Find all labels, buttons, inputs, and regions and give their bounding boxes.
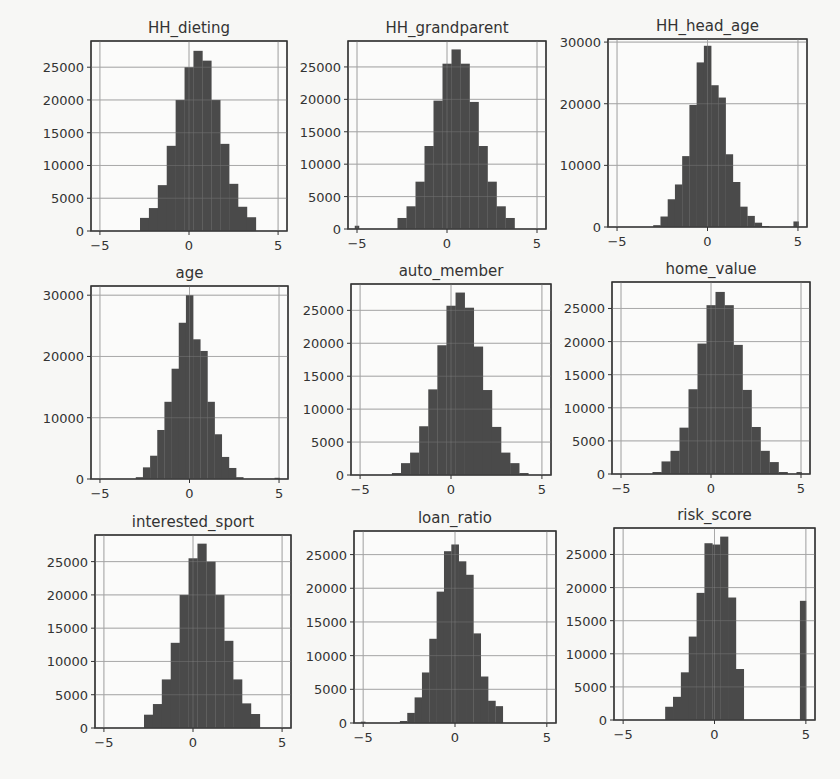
y-tick-label: 25000 (300, 60, 341, 75)
y-tick-label: 0 (336, 468, 344, 483)
x-tick-label: −5 (351, 482, 370, 497)
histogram-bar (470, 102, 479, 229)
y-tick-label: 5000 (311, 435, 344, 450)
histogram-bar (662, 461, 671, 474)
y-tick-label: 20000 (560, 97, 601, 112)
x-tick-label: −5 (611, 481, 630, 496)
x-tick-label: −5 (614, 727, 633, 742)
histogram-bar (488, 701, 496, 723)
histogram-bar (461, 64, 470, 229)
y-tick-label: 30000 (43, 288, 84, 303)
histogram-bar (474, 347, 483, 475)
histogram-bar (501, 453, 510, 475)
x-tick-label: 5 (533, 236, 541, 251)
x-tick-label: −5 (94, 735, 113, 750)
x-tick-label: 0 (707, 481, 715, 496)
histogram-bar (233, 679, 242, 728)
histogram-bar (401, 463, 410, 475)
panel-title: loan_ratio (418, 509, 492, 528)
x-tick-label: 5 (538, 482, 546, 497)
histogram-bar (506, 218, 515, 229)
histogram-bar (416, 182, 425, 229)
x-tick-label: −5 (607, 234, 626, 249)
histogram-bar (407, 713, 415, 723)
y-tick-label: 5000 (308, 190, 341, 205)
y-tick-label: 25000 (564, 301, 605, 316)
y-tick-label: 20000 (43, 93, 84, 108)
histogram-bar (415, 697, 423, 723)
y-tick-label: 5000 (574, 680, 607, 695)
histogram-bar (171, 643, 180, 728)
histogram-bar (422, 672, 430, 723)
y-tick-label: 25000 (43, 60, 84, 75)
y-tick-label: 20000 (47, 588, 88, 603)
y-tick-label: 20000 (566, 581, 607, 596)
histogram-bar (407, 206, 416, 229)
y-tick-label: 20000 (303, 336, 344, 351)
y-tick-label: 10000 (47, 654, 88, 669)
histogram-bar (689, 389, 698, 474)
y-tick-label: 0 (76, 224, 84, 239)
y-tick-label: 15000 (566, 614, 607, 629)
histogram-bar (743, 390, 752, 474)
histogram-bar (660, 217, 668, 227)
histogram-bar (157, 430, 164, 479)
histogram-bar (452, 49, 461, 229)
x-tick-label: −5 (90, 486, 109, 501)
x-tick-label: 5 (275, 486, 283, 501)
histogram-bar (238, 207, 247, 231)
histogram-bar (164, 402, 171, 479)
histogram-panel-age: 0100002000030000−505age (91, 286, 288, 483)
x-tick-label: 0 (451, 730, 459, 745)
histogram-bar (747, 216, 755, 227)
histogram-panel-interested-sport: 0500010000150002000025000−505interested_… (95, 535, 291, 732)
panel-title: HH_head_age (656, 17, 759, 36)
x-tick-label: 5 (543, 730, 551, 745)
histogram-bar (752, 427, 761, 474)
y-tick-label: 20000 (306, 581, 347, 596)
y-tick-label: 0 (76, 472, 84, 487)
y-tick-label: 30000 (560, 35, 601, 50)
histogram-bar (144, 715, 153, 728)
histogram-bar (733, 182, 741, 227)
histogram-bar (711, 85, 719, 227)
histogram-bar (193, 51, 202, 231)
y-tick-label: 5000 (314, 682, 347, 697)
histogram-bar (671, 451, 680, 474)
x-tick-label: 0 (185, 486, 193, 501)
panel-title: interested_sport (132, 513, 254, 532)
histogram-bar (207, 402, 214, 479)
histogram-bar (510, 463, 519, 475)
x-tick-label: 0 (443, 236, 451, 251)
histogram-bar (444, 551, 452, 723)
histogram-bar (770, 462, 779, 474)
histogram-bar (734, 345, 743, 474)
histogram-bar (229, 468, 236, 479)
x-tick-label: 0 (703, 234, 711, 249)
y-tick-label: 0 (333, 222, 341, 237)
y-tick-label: 10000 (306, 649, 347, 664)
histogram-bar (398, 218, 407, 229)
histogram-bar (675, 184, 683, 227)
histogram-bar (437, 345, 446, 475)
histogram-bar (167, 146, 176, 231)
histogram-panel-hh-grandparent: 0500010000150002000025000−505HH_grandpar… (348, 41, 546, 233)
histogram-bar (200, 351, 207, 479)
y-tick-label: 0 (80, 721, 88, 736)
y-tick-label: 15000 (303, 369, 344, 384)
y-tick-label: 25000 (303, 303, 344, 318)
y-tick-label: 0 (599, 713, 607, 728)
histogram-bar (158, 185, 167, 231)
panel-title: HH_grandparent (385, 19, 508, 38)
histogram-bar (466, 575, 474, 723)
y-tick-label: 10000 (303, 402, 344, 417)
histogram-panel-auto-member: 0500010000150002000025000−505auto_member (351, 284, 551, 479)
panel-title: auto_member (399, 262, 504, 281)
y-tick-label: 0 (339, 716, 347, 731)
histogram-bar (720, 537, 728, 720)
y-tick-label: 25000 (566, 547, 607, 562)
panel-title: age (176, 264, 204, 282)
histogram-bar (497, 206, 506, 229)
histogram-bar (172, 369, 179, 479)
histogram-bar (410, 453, 419, 475)
